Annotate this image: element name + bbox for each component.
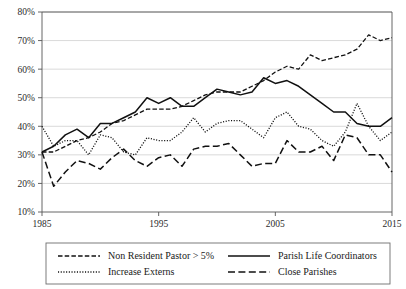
x-tick-label: 1995	[149, 219, 168, 229]
x-tick-label: 1985	[33, 219, 52, 229]
x-axis-tick-labels: 1985199520052015	[33, 212, 402, 229]
y-tick-label: 60%	[18, 65, 36, 75]
data-series-group	[42, 35, 392, 186]
x-tick-label: 2005	[266, 219, 285, 229]
y-tick-label: 30%	[18, 150, 36, 160]
gridlines	[42, 12, 392, 183]
y-axis-tick-labels: 10%20%30%40%50%60%70%80%	[18, 7, 42, 217]
legend-item-label[interactable]: Parish Life Coordinators	[278, 250, 377, 261]
legend-item-label[interactable]: Non Resident Pastor > 5%	[108, 250, 214, 261]
y-tick-label: 10%	[18, 207, 36, 217]
x-tick-label: 2015	[383, 219, 402, 229]
y-tick-label: 40%	[18, 122, 36, 132]
line-chart: 10%20%30%40%50%60%70%80% 198519952005201…	[0, 0, 406, 289]
y-tick-label: 80%	[18, 7, 36, 17]
y-tick-label: 20%	[18, 179, 36, 189]
legend-item-label[interactable]: Increase Externs	[108, 266, 174, 277]
y-tick-label: 50%	[18, 93, 36, 103]
chart-figure: 10%20%30%40%50%60%70%80% 198519952005201…	[0, 0, 406, 289]
series-line-dashed	[42, 35, 392, 152]
series-line-solid	[42, 78, 392, 152]
chart-legend: Non Resident Pastor > 5%Parish Life Coor…	[46, 243, 390, 284]
series-line-longdash	[42, 135, 392, 186]
y-tick-label: 70%	[18, 36, 36, 46]
legend-item-label[interactable]: Close Parishes	[278, 266, 337, 277]
